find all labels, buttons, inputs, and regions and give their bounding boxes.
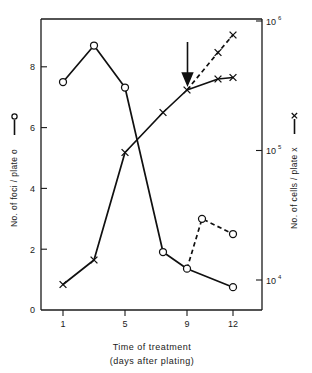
marker-circle xyxy=(184,265,191,272)
scientific-line-chart: 0 2 4 6 8 10 6 10 5 10 4 1 5 xyxy=(0,0,312,373)
x-tick-label-9: 9 xyxy=(184,319,189,329)
marker-circle xyxy=(160,249,167,256)
left-tick-label-0: 0 xyxy=(30,305,35,315)
right-tick-mantissa-1e5: 10 xyxy=(266,146,276,156)
treatment-arrow-annotation xyxy=(183,42,193,85)
marker-circle xyxy=(230,231,237,238)
right-axis-title-group: No. of cells / plate x xyxy=(289,113,299,229)
marker-cross xyxy=(160,109,167,116)
right-axis-legend-cross-marker xyxy=(292,113,297,118)
marker-circle xyxy=(122,84,129,91)
right-axis-title: No. of cells / plate x xyxy=(289,147,299,229)
right-tick-label-1e6: 10 6 xyxy=(266,15,282,27)
x-tick-label-1: 1 xyxy=(60,319,65,329)
right-tick-exponent-1e6: 6 xyxy=(278,15,282,21)
series-cells-lower-branch-line xyxy=(187,78,233,91)
series-foci-main-line xyxy=(63,46,233,288)
figure-container: 0 2 4 6 8 10 6 10 5 10 4 1 5 xyxy=(0,0,312,373)
left-tick-label-6: 6 xyxy=(30,123,35,133)
left-tick-label-2: 2 xyxy=(30,245,35,255)
left-tick-label-8: 8 xyxy=(30,62,35,72)
right-tick-mantissa-1e6: 10 xyxy=(266,17,276,27)
marker-circle xyxy=(230,284,237,291)
left-axis-title-group: No. of foci / plate o xyxy=(9,114,19,227)
right-tick-mantissa-1e4: 10 xyxy=(266,276,276,286)
x-tick-label-12: 12 xyxy=(228,319,238,329)
x-axis-ticks xyxy=(63,310,233,316)
marker-cross xyxy=(60,281,67,288)
marker-circle xyxy=(199,215,206,222)
right-tick-label-1e5: 10 5 xyxy=(266,144,282,156)
marker-cross xyxy=(215,49,222,56)
right-tick-label-1e4: 10 4 xyxy=(266,274,282,286)
x-axis-title: Time of treatment xyxy=(113,342,192,352)
left-tick-label-4: 4 xyxy=(30,184,35,194)
right-tick-exponent-1e4: 4 xyxy=(278,274,282,280)
series-cells-markers xyxy=(60,32,237,288)
marker-cross xyxy=(230,32,237,39)
series-foci-markers xyxy=(60,42,237,291)
right-tick-exponent-1e5: 5 xyxy=(278,144,282,150)
left-axis-ticks xyxy=(41,67,47,249)
series-foci-branch-line xyxy=(187,219,233,269)
left-axis-legend-circle-marker xyxy=(12,114,17,119)
x-tick-label-5: 5 xyxy=(122,319,127,329)
left-axis-title: No. of foci / plate o xyxy=(9,149,19,227)
marker-circle xyxy=(60,79,67,86)
x-axis-subtitle: (days after plating) xyxy=(110,356,195,366)
right-axis-ticks xyxy=(256,21,262,280)
marker-circle xyxy=(91,42,98,49)
